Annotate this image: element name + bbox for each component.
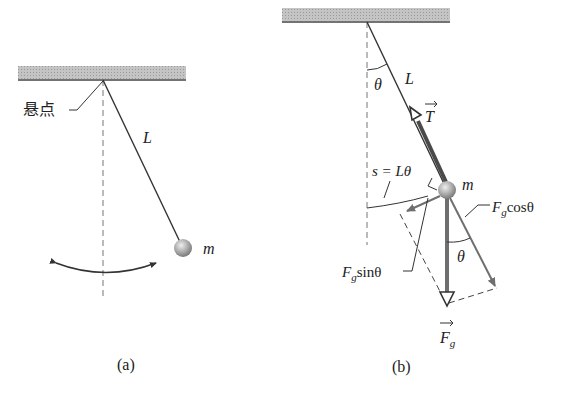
fg-sin-arrow: [407, 196, 440, 211]
gravity-label: Fg: [439, 329, 456, 349]
length-label-a: L: [142, 129, 152, 146]
ball-b: [438, 181, 456, 199]
angle-arc-bottom: [447, 238, 470, 242]
mass-label-b: m: [462, 176, 474, 193]
tension-arrow: [418, 121, 446, 182]
angle-label-bottom: θ: [457, 248, 465, 265]
angle-label-top: θ: [374, 76, 382, 93]
fg-sin-label-tail: sinθ: [357, 264, 382, 280]
component-dash-bottom: [449, 288, 497, 303]
arc-label-leader: [384, 181, 390, 198]
fg-sin-label: Fgsinθ: [341, 264, 381, 283]
angle-arc-top: [367, 64, 387, 70]
fg-cos-label: Fgcosθ: [491, 199, 534, 218]
arc-label: s = Lθ: [372, 163, 412, 179]
pivot-leader-line: [69, 81, 103, 110]
caption-b: (b): [392, 358, 411, 376]
right-angle-marker: [428, 178, 437, 190]
tension-label: T: [425, 108, 435, 125]
ball-a: [174, 239, 192, 257]
gravity-arrowhead: [440, 292, 454, 306]
fg-cos-label-tail: cosθ: [507, 199, 534, 215]
tension-arrowhead: [410, 107, 421, 120]
gravity-vector-arrow: [440, 320, 453, 326]
tension-vector-arrow: [425, 101, 437, 107]
caption-a: (a): [117, 356, 135, 374]
ceiling-a: [18, 66, 186, 79]
figure-a: 悬点 L m (a): [18, 66, 215, 374]
fg-cos-leader: [465, 205, 490, 217]
string-a: [103, 80, 180, 242]
swing-arrow: [56, 263, 156, 273]
gravity-label-sub: g: [450, 337, 456, 349]
ceiling-b: [282, 8, 450, 21]
figure-b: θ L T s = Lθ m Fgcosθ Fgsinθ θ Fg (b): [282, 8, 534, 376]
gravity-label-main: F: [439, 329, 450, 346]
length-label-b: L: [404, 70, 414, 87]
pendulum-diagram: 悬点 L m (a) θ L T: [0, 0, 570, 406]
mass-label-a: m: [203, 240, 215, 257]
pivot-label: 悬点: [23, 100, 55, 119]
